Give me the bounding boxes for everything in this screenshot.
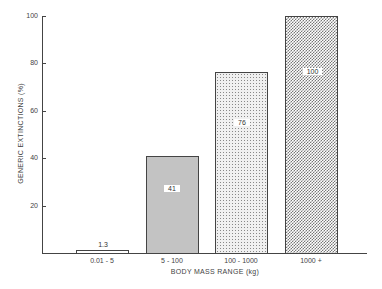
bar-value-label: 76	[234, 119, 250, 126]
y-tick-80	[42, 63, 46, 64]
y-axis-title: GENERIC EXTINCTIONS (%)	[17, 74, 24, 194]
bar-100-1000	[215, 72, 268, 254]
bar-0.01-5	[76, 250, 129, 254]
y-tick-label-100: 100	[8, 12, 38, 19]
x-axis-title: BODY MASS RANGE (kg)	[150, 268, 280, 275]
x-category-label: 0.01 - 5	[67, 257, 137, 264]
y-tick-40	[42, 158, 46, 159]
x-category-label: 5 - 100	[137, 257, 207, 264]
y-tick-60	[42, 111, 46, 112]
bar-value-label: 1.3	[92, 241, 114, 248]
bar-1000-plus	[285, 16, 338, 254]
bar-value-label: 100	[303, 68, 322, 75]
y-tick-100	[42, 16, 46, 17]
y-tick-label-20: 20	[8, 202, 38, 209]
x-category-label: 1000 +	[276, 257, 346, 264]
y-tick-20	[42, 206, 46, 207]
y-tick-label-80: 80	[8, 59, 38, 66]
bar-value-label: 41	[164, 185, 180, 192]
x-category-label: 100 - 1000	[206, 257, 276, 264]
bar-5-100	[146, 156, 199, 254]
y-axis-line	[42, 16, 43, 254]
